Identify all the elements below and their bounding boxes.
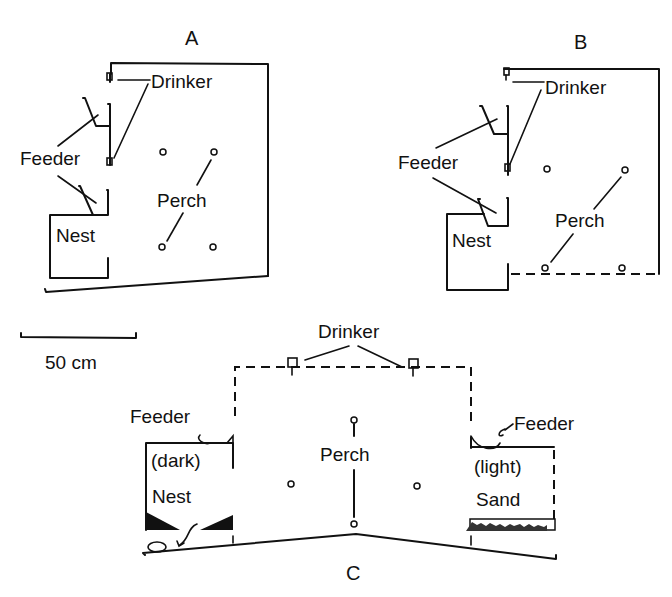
panel-a-feeder-label: Feeder [20,149,80,168]
panel-b-drawing [433,68,659,290]
panel-b-perch-1-icon [544,166,550,172]
panel-c-drinker-left-icon [288,358,297,367]
panel-c-perch-left-icon [288,481,294,487]
enclosure-diagram: A Drinker Feeder Perch Nest B Drinker Fe… [0,0,672,597]
egg-icon [148,542,166,552]
panel-b-perch-3-icon [542,265,548,271]
panel-a-perch-1-icon [160,149,166,155]
panel-a-perch-label: Perch [157,191,207,210]
panel-c-perch-bottom-icon [351,521,357,527]
panel-c-nest-entrance-left-icon [146,512,180,530]
panel-c-sand-qualifier-label: (light) [474,457,522,476]
panel-c-drinker-label: Drinker [318,322,379,341]
panel-b-feeder-label: Feeder [398,153,458,172]
panel-b-nest-label: Nest [452,231,491,250]
panel-b-letter: B [574,32,587,52]
panel-c-perch-right-icon [414,483,420,489]
panel-c-perch-top-icon [351,417,357,423]
panel-c-nest-entrance-right-icon [200,515,233,530]
panel-a-perch-2-icon [211,149,217,155]
scale-bar-line [21,333,136,338]
panel-c-sand-label: Sand [476,490,520,509]
panel-c-feeder-right-label: Feeder [514,414,574,433]
panel-a-feeder-top-icon [83,98,110,126]
panel-c-letter: C [346,563,360,583]
panel-a-feeder-bottom-icon [79,186,93,215]
panel-b-top-right-wall [504,69,659,274]
panel-a-perch-4-icon [210,244,216,250]
panel-a-drinker-label: Drinker [151,72,212,91]
egg-arrow-icon [180,524,197,545]
panel-a-letter: A [185,28,198,48]
panel-a-top-right-wall [111,63,268,276]
panel-a-nest-label: Nest [56,226,95,245]
panel-b-perch-4-icon [619,265,625,271]
panel-b-drinker-label: Drinker [545,78,606,97]
panel-c-dashed-enclosure [235,367,471,421]
panel-b-perch-label: Perch [555,211,605,230]
panel-b-perch-2-icon [622,167,628,173]
scale-bar-label: 50 cm [45,353,97,372]
panel-a-perch-3-icon [159,244,165,250]
panel-c-feeder-left-label: Feeder [130,407,190,426]
panel-c-nest-qualifier-label: (dark) [151,451,201,470]
panel-c-nest-label: Nest [152,487,191,506]
panel-c-floor [143,534,556,559]
panel-c-perch-label: Perch [320,445,370,464]
panel-a-drawing [45,63,268,292]
